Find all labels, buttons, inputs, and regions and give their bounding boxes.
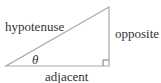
opposite-label: opposite (115, 26, 159, 41)
right-triangle-diagram: hypotenuse opposite θ adjacent (0, 0, 161, 83)
hypotenuse-label: hypotenuse (5, 19, 64, 34)
theta-label: θ (32, 52, 39, 67)
triangle-shape (6, 7, 109, 66)
adjacent-label: adjacent (45, 69, 89, 83)
right-angle-marker (103, 60, 109, 66)
